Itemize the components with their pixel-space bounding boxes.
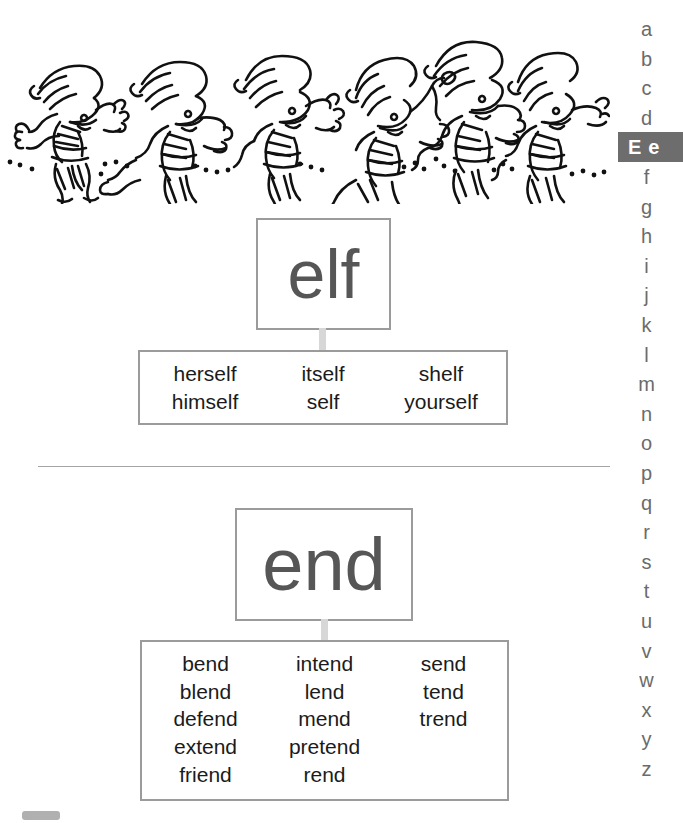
alphabet-item-label: s (642, 552, 652, 572)
alphabet-item-y[interactable]: y (610, 724, 683, 754)
word-item[interactable]: blend (180, 678, 231, 706)
alphabet-item-label: b (641, 49, 652, 69)
alphabet-item-label: j (644, 285, 648, 305)
alphabet-item-label: l (644, 345, 648, 365)
headword-box-elf[interactable]: elf (256, 218, 391, 330)
alphabet-item-w[interactable]: w (610, 665, 683, 695)
elf-figure-3 (234, 56, 344, 204)
word-item[interactable]: mend (298, 705, 351, 733)
wordlist-box-elf: herself himself itself self shelf yourse… (138, 350, 508, 425)
alphabet-item-p[interactable]: p (610, 458, 683, 488)
alphabet-item-o[interactable]: o (610, 428, 683, 458)
word-item[interactable]: self (307, 388, 340, 416)
alphabet-item-label: o (641, 433, 652, 453)
content-column: elf herself himself itself self shelf yo… (0, 0, 610, 823)
alphabet-item-label: h (641, 226, 652, 246)
word-item[interactable]: rend (303, 761, 345, 789)
alphabet-item-label: g (641, 197, 652, 217)
headword-box-end[interactable]: end (235, 508, 413, 621)
alphabet-item-v[interactable]: v (610, 636, 683, 666)
alphabet-item-uppercase: E (628, 137, 641, 157)
alphabet-item-label: y (642, 729, 652, 749)
alphabet-item-t[interactable]: t (610, 576, 683, 606)
alphabet-item-b[interactable]: b (610, 44, 683, 74)
alphabet-item-label: v (642, 641, 652, 661)
alphabet-index-sidebar[interactable]: abcdEefghijklmnopqrstuvwxyz (610, 0, 683, 823)
headword-text: end (262, 528, 385, 602)
word-item[interactable]: friend (179, 761, 232, 789)
elf-figure-6 (492, 53, 609, 204)
alphabet-item-g[interactable]: g (610, 192, 683, 222)
word-column: shelf yourself (382, 360, 500, 415)
dotted-ground-line (8, 157, 607, 178)
alphabet-item-u[interactable]: u (610, 606, 683, 636)
word-column: intend lend mend pretend rend (265, 650, 384, 789)
section-divider (38, 466, 610, 467)
word-item[interactable]: intend (296, 650, 353, 678)
alphabet-item-label: t (644, 581, 650, 601)
alphabet-item-m[interactable]: m (610, 369, 683, 399)
alphabet-item-q[interactable]: q (610, 488, 683, 518)
word-item[interactable]: yourself (404, 388, 478, 416)
jumping-elves-svg (0, 14, 610, 204)
word-item[interactable]: send (421, 650, 467, 678)
word-item[interactable]: tend (423, 678, 464, 706)
alphabet-item-z[interactable]: z (610, 754, 683, 784)
word-item[interactable]: herself (173, 360, 236, 388)
word-item[interactable]: bend (182, 650, 229, 678)
word-item[interactable]: defend (173, 705, 237, 733)
alphabet-item-j[interactable]: j (610, 280, 683, 310)
scroll-nub[interactable] (22, 811, 60, 820)
alphabet-item-label: r (643, 522, 650, 542)
alphabet-item-label: p (641, 463, 652, 483)
elf-figure-1 (15, 66, 129, 204)
alphabet-item-label: w (639, 670, 653, 690)
alphabet-item-label: a (641, 19, 652, 39)
word-column: bend blend defend extend friend (146, 650, 265, 789)
headword-text: elf (288, 240, 360, 308)
word-column: send tend trend (384, 650, 503, 733)
jumping-elves-illustration (0, 14, 610, 204)
alphabet-item-label: d (641, 108, 652, 128)
word-item[interactable]: itself (301, 360, 344, 388)
alphabet-item-label: q (641, 493, 652, 513)
word-item[interactable]: lend (305, 678, 345, 706)
alphabet-item-f[interactable]: f (610, 162, 683, 192)
word-item[interactable]: pretend (289, 733, 360, 761)
alphabet-item-label: u (641, 611, 652, 631)
elf-figure-2 (100, 62, 232, 204)
alphabet-item-n[interactable]: n (610, 399, 683, 429)
word-item[interactable]: extend (174, 733, 237, 761)
alphabet-item-h[interactable]: h (610, 221, 683, 251)
alphabet-item-a[interactable]: a (610, 14, 683, 44)
alphabet-item-d[interactable]: d (610, 103, 683, 133)
word-column: itself self (264, 360, 382, 415)
word-family-page: elf herself himself itself self shelf yo… (0, 0, 683, 823)
alphabet-item-k[interactable]: k (610, 310, 683, 340)
wordlist-box-end: bend blend defend extend friend intend l… (140, 640, 509, 801)
alphabet-item-s[interactable]: s (610, 547, 683, 577)
alphabet-item-label: z (642, 759, 652, 779)
elf-figure-5 (412, 42, 525, 204)
alphabet-item-c[interactable]: c (610, 73, 683, 103)
alphabet-item-lowercase: e (648, 137, 659, 157)
word-item[interactable]: shelf (419, 360, 463, 388)
alphabet-item-label: f (644, 167, 650, 187)
alphabet-item-x[interactable]: x (610, 695, 683, 725)
alphabet-item-i[interactable]: i (610, 251, 683, 281)
alphabet-item-label: k (642, 315, 652, 335)
alphabet-item-e[interactable]: Ee (618, 132, 683, 162)
alphabet-item-r[interactable]: r (610, 517, 683, 547)
alphabet-item-label: n (641, 404, 652, 424)
alphabet-item-label: i (644, 256, 648, 276)
word-item[interactable]: trend (420, 705, 468, 733)
word-item[interactable]: himself (172, 388, 239, 416)
alphabet-item-l[interactable]: l (610, 340, 683, 370)
alphabet-item-label: c (642, 78, 652, 98)
alphabet-item-label: m (638, 374, 655, 394)
word-column: herself himself (146, 360, 264, 415)
alphabet-item-label: x (642, 700, 652, 720)
